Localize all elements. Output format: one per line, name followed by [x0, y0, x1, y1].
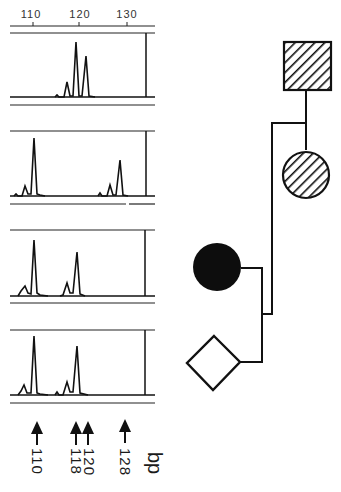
electropherogram-panel-4: [10, 330, 155, 403]
unknown-sex-diamond: [187, 336, 240, 390]
size-scale-axis: [10, 22, 155, 26]
arrow-128: [119, 419, 131, 443]
affected-female-circle-hatched: [283, 152, 329, 198]
unit-label-bp: bp: [145, 452, 165, 474]
arrow-118: [70, 421, 82, 445]
scale-tick-label-120: 120: [69, 8, 90, 20]
scale-tick-label-110: 110: [21, 8, 42, 20]
arrow-110: [31, 421, 43, 445]
figure-canvas: [0, 0, 341, 492]
affected-female-circle-solid: [193, 243, 241, 291]
electropherogram-panel-3: [10, 230, 155, 303]
affected-male-square: [284, 42, 331, 90]
arrow-label-120: 120: [82, 448, 96, 476]
arrow-120: [82, 421, 94, 445]
arrow-label-128: 128: [118, 448, 132, 476]
allele-arrows: [31, 419, 131, 445]
electropherogram-panel-2: [10, 131, 155, 204]
electropherogram-panel-1: [10, 33, 155, 105]
scale-tick-label-130: 130: [116, 8, 137, 20]
arrow-label-110: 110: [30, 448, 44, 475]
pedigree: [187, 42, 331, 390]
